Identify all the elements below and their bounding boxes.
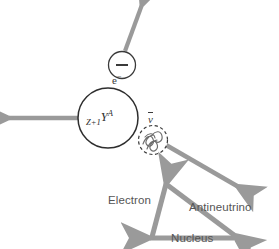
antineutrino-nu-glyph: ν — [148, 113, 153, 125]
beta-decay-diagram: e− Z+1YA ν Electron Antineutrino Nucleus — [0, 0, 279, 249]
nuclide-element-symbol: Y — [101, 110, 108, 124]
electron-symbol-charge: − — [117, 72, 122, 81]
triangle-label-electron: Electron — [108, 194, 151, 206]
triangle-electron-vector — [152, 184, 166, 237]
nuclide-mass-number: A — [108, 108, 113, 118]
electron-symbol-label: e− — [112, 72, 122, 86]
nuclide-atomic-number: Z+1 — [86, 117, 101, 127]
triangle-label-antineutrino: Antineutrino — [189, 201, 252, 213]
antineutrino-momentum-arrow — [166, 145, 237, 186]
electron-momentum-arrow — [125, 6, 142, 51]
triangle-label-nucleus: Nucleus — [171, 232, 213, 244]
antineutrino-symbol-label: ν — [148, 112, 153, 125]
nuclide-symbol-label: Z+1YA — [86, 108, 113, 127]
